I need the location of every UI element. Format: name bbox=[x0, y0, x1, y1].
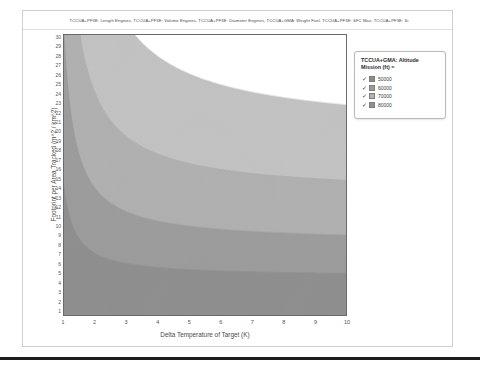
legend-item[interactable]: ✓60000 bbox=[361, 83, 440, 92]
y-axis-tick: 2 bbox=[58, 300, 61, 305]
y-axis-tick: 23 bbox=[55, 101, 61, 106]
legend-item[interactable]: ✓70000 bbox=[361, 92, 440, 101]
y-axis-tick: 13 bbox=[55, 196, 61, 201]
application-window: TCCUA+PF3E: Length Engines, TCCUA+PF3E: … bbox=[0, 0, 480, 371]
y-axis-tick: 17 bbox=[55, 158, 61, 163]
chart-title-strip: TCCUA+PF3E: Length Engines, TCCUA+PF3E: … bbox=[29, 15, 449, 27]
y-axis-tick: 20 bbox=[55, 129, 61, 134]
y-axis-tick: 7 bbox=[58, 252, 61, 257]
x-axis-tick: 7 bbox=[251, 319, 254, 326]
check-icon[interactable]: ✓ bbox=[361, 76, 367, 82]
legend-color-swatch bbox=[369, 76, 375, 82]
legend-item[interactable]: ✓50000 bbox=[361, 75, 440, 84]
x-axis-tick: 4 bbox=[156, 319, 159, 326]
y-axis-tick: 22 bbox=[55, 111, 61, 116]
y-axis-tick: 24 bbox=[55, 92, 61, 97]
x-axis-tick: 1 bbox=[61, 319, 64, 326]
window-bottom-bar bbox=[0, 357, 480, 371]
y-axis-tick: 30 bbox=[55, 35, 61, 40]
y-axis-tick: 3 bbox=[58, 290, 61, 295]
legend-color-swatch bbox=[369, 93, 375, 99]
y-axis-tick-labels: 3029282726252423222120191817161514131211… bbox=[37, 34, 61, 316]
legend-item-list: ✓50000✓60000✓70000✓80000 bbox=[361, 75, 440, 109]
y-axis-tick: 28 bbox=[55, 54, 61, 59]
check-icon[interactable]: ✓ bbox=[361, 102, 367, 108]
legend-item-label: 50000 bbox=[378, 76, 392, 82]
x-axis-tick: 6 bbox=[219, 319, 222, 326]
y-axis-tick: 14 bbox=[55, 186, 61, 191]
y-axis-tick: 18 bbox=[55, 148, 61, 153]
y-axis-tick: 6 bbox=[58, 262, 61, 267]
y-axis-tick: 12 bbox=[55, 205, 61, 210]
y-axis-tick: 1 bbox=[58, 309, 61, 314]
legend-color-swatch bbox=[369, 102, 375, 108]
legend-item-label: 70000 bbox=[378, 93, 392, 99]
x-axis-tick: 8 bbox=[282, 319, 285, 326]
contour-canvas bbox=[64, 35, 346, 315]
x-axis-tick-labels: 12345678910 bbox=[63, 319, 347, 327]
x-axis-tick: 9 bbox=[314, 319, 317, 326]
y-axis-tick: 8 bbox=[58, 243, 61, 248]
y-axis-tick: 10 bbox=[55, 224, 61, 229]
y-axis-tick: 29 bbox=[55, 44, 61, 49]
legend-item-label: 60000 bbox=[378, 85, 392, 91]
contour-plot-area[interactable] bbox=[63, 34, 347, 316]
y-axis-tick: 16 bbox=[55, 167, 61, 172]
x-axis-tick: 5 bbox=[188, 319, 191, 326]
y-axis-tick: 19 bbox=[55, 139, 61, 144]
y-axis-tick: 25 bbox=[55, 82, 61, 87]
chart-panel: TCCUA+PF3E: Length Engines, TCCUA+PF3E: … bbox=[22, 10, 453, 347]
check-icon[interactable]: ✓ bbox=[361, 85, 367, 91]
y-axis-tick: 4 bbox=[58, 281, 61, 286]
y-axis-tick: 26 bbox=[55, 73, 61, 78]
legend-item[interactable]: ✓80000 bbox=[361, 100, 440, 109]
y-axis-tick: 5 bbox=[58, 271, 61, 276]
x-axis-tick: 3 bbox=[125, 319, 128, 326]
y-axis-tick: 9 bbox=[58, 233, 61, 238]
y-axis-tick: 15 bbox=[55, 177, 61, 182]
check-icon[interactable]: ✓ bbox=[361, 93, 367, 99]
legend-color-swatch bbox=[369, 85, 375, 91]
x-axis-tick: 2 bbox=[93, 319, 96, 326]
x-axis-tick: 10 bbox=[344, 319, 350, 326]
x-axis-title: Delta Temperature of Target (K) bbox=[63, 331, 347, 338]
y-axis-tick: 27 bbox=[55, 63, 61, 68]
legend-panel[interactable]: TCCUA+GMA: Altitude Mission (ft) = ✓5000… bbox=[354, 51, 446, 119]
legend-title-line-1: TCCUA+GMA: Altitude bbox=[361, 57, 440, 64]
legend-title: TCCUA+GMA: Altitude Mission (ft) = bbox=[361, 57, 440, 72]
legend-item-label: 80000 bbox=[378, 102, 392, 108]
y-axis-tick: 21 bbox=[55, 120, 61, 125]
y-axis-tick: 11 bbox=[56, 215, 61, 220]
title-divider bbox=[23, 29, 452, 30]
legend-title-line-2: Mission (ft) = bbox=[361, 64, 440, 71]
